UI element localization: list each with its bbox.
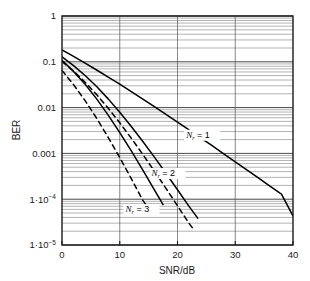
x-tick-label: 30 xyxy=(230,249,241,260)
x-axis-title: SNR/dB xyxy=(159,265,195,276)
x-tick-label: 10 xyxy=(114,249,125,260)
y-tick-labels: 10.10.010.0011·10−41·10−5 xyxy=(30,10,57,250)
y-tick-label: 0.01 xyxy=(38,102,57,113)
x-tick-labels: 010203040 xyxy=(59,249,298,260)
x-tick-label: 20 xyxy=(172,249,183,260)
y-tick-label: 1 xyxy=(51,10,56,21)
y-tick-label: 0.001 xyxy=(32,148,56,159)
y-tick-label: 1·10−5 xyxy=(30,239,57,251)
y-tick-label: 1·10−4 xyxy=(30,193,57,205)
ber-vs-snr-chart: 010203040 10.10.010.0011·10−41·10−5 Nr =… xyxy=(0,0,310,281)
curve-label: Nr = 1 xyxy=(185,130,210,141)
chart-figure: 010203040 10.10.010.0011·10−41·10−5 Nr =… xyxy=(0,0,310,281)
x-tick-label: 0 xyxy=(59,249,64,260)
curve-label: Nr = 2 xyxy=(151,168,176,179)
y-axis-title: BER xyxy=(11,120,22,141)
x-tick-label: 40 xyxy=(288,249,299,260)
y-tick-label: 0.1 xyxy=(43,56,56,67)
curve-label: Nr = 3 xyxy=(125,204,150,215)
